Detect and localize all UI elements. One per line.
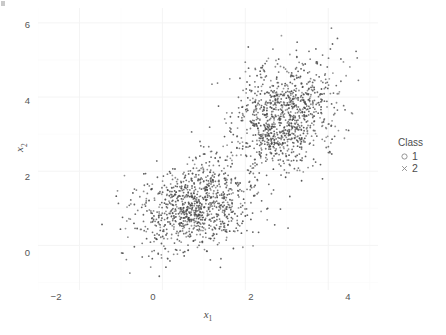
data-points-layer bbox=[38, 8, 378, 290]
circle-open-icon bbox=[398, 150, 411, 162]
y-axis-title-subscript: 2 bbox=[20, 143, 29, 147]
x-tick-label-0: −2 bbox=[41, 292, 71, 302]
plot-panel bbox=[38, 8, 378, 290]
legend-item-1[interactable]: 1 bbox=[398, 150, 444, 162]
legend-label-2: 2 bbox=[411, 162, 418, 174]
corner-artifact bbox=[1, 1, 5, 6]
legend: Class 1 2 bbox=[398, 137, 444, 174]
cross-icon bbox=[398, 162, 411, 174]
legend-label-1: 1 bbox=[411, 150, 418, 162]
legend-title: Class bbox=[398, 137, 444, 149]
x-tick-label-1: 0 bbox=[138, 292, 168, 302]
y-tick-label-0: 0 bbox=[8, 248, 30, 258]
scatter-plot-figure: 0 2 4 6 −2 0 2 4 x1 x2 Class 1 2 bbox=[0, 0, 446, 335]
legend-item-2[interactable]: 2 bbox=[398, 162, 444, 174]
y-tick-label-1: 2 bbox=[8, 172, 30, 182]
y-tick-label-2: 4 bbox=[8, 96, 30, 106]
y-axis-title-base: x bbox=[13, 147, 25, 152]
y-tick-label-3: 6 bbox=[8, 20, 30, 30]
x-tick-label-2: 2 bbox=[236, 292, 266, 302]
x-tick-label-3: 4 bbox=[333, 292, 363, 302]
x-axis-title: x1 bbox=[38, 308, 378, 323]
y-axis-title: x2 bbox=[13, 123, 28, 173]
x-axis-title-subscript: 1 bbox=[209, 314, 213, 323]
